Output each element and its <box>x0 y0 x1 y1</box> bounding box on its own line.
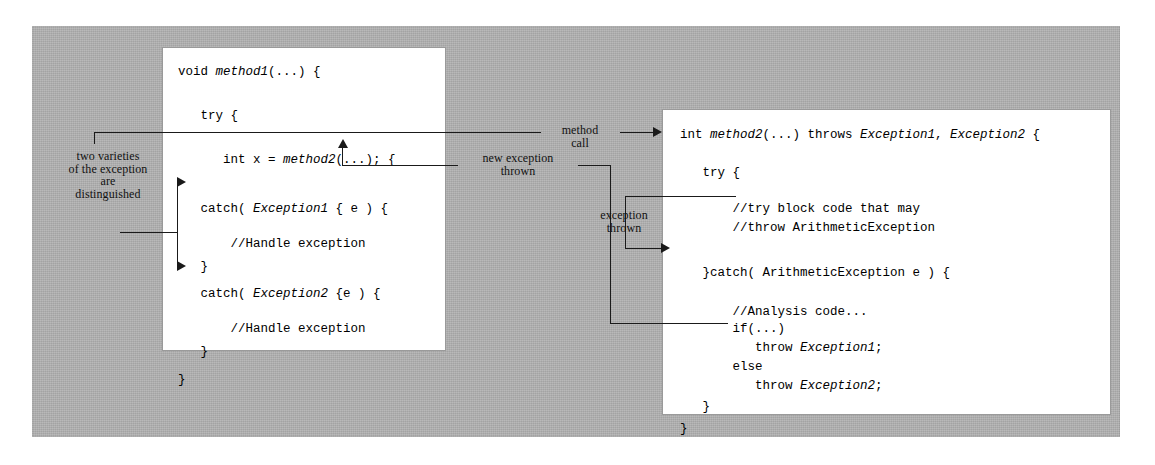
two-varieties-connector-stem <box>120 232 178 233</box>
exception-thrown-line-bottom <box>625 248 665 249</box>
code-line: //Analysis code... <box>680 306 868 319</box>
new-exception-line-c <box>610 323 728 324</box>
code-line: } <box>680 401 710 414</box>
method-call-left-tick <box>94 132 95 144</box>
code-line: throw Exception1; <box>680 342 883 355</box>
annotation-new-exception-thrown: new exception thrown <box>462 152 574 177</box>
code-line: //throw ArithmeticException <box>680 222 935 235</box>
arrow-into-catch-arithmetic-icon <box>661 243 670 253</box>
code-line: if(...) <box>680 323 785 336</box>
annotation-method-call: method call <box>540 124 620 149</box>
code-line: catch( Exception1 { e ) { <box>178 203 388 216</box>
new-exception-spine <box>610 165 611 323</box>
method-call-line-left <box>94 132 541 133</box>
method-call-line-right <box>620 132 657 133</box>
arrow-to-catch-exception1-icon <box>177 177 186 187</box>
code-line: int method2(...) throws Exception1, Exce… <box>680 129 1040 142</box>
diagram-canvas: void method1(...) { try { int x = method… <box>0 0 1155 465</box>
annotation-exception-thrown: exception thrown <box>583 209 665 234</box>
new-exception-line-a <box>342 165 458 166</box>
exception-thrown-line-top <box>625 196 736 197</box>
annotation-two-varieties: two varieties of the exception are disti… <box>48 150 168 200</box>
code-line: try { <box>680 167 740 180</box>
code-line: //try block code that may <box>680 203 920 216</box>
code-line: } <box>680 423 688 436</box>
code-line: //Handle exception <box>178 238 366 251</box>
method1-code-box: void method1(...) { try { int x = method… <box>163 48 445 350</box>
code-line: else <box>680 361 763 374</box>
code-line: }catch( ArithmeticException e ) { <box>680 267 950 280</box>
code-line: catch( Exception2 {e ) { <box>178 288 381 301</box>
new-exception-riser <box>342 148 343 166</box>
new-exception-line-b <box>578 165 611 166</box>
two-varieties-connector-spine <box>177 182 178 267</box>
code-line: void method1(...) { <box>178 66 321 79</box>
method2-code-box: int method2(...) throws Exception1, Exce… <box>663 110 1110 414</box>
code-line: try { <box>178 110 238 123</box>
code-line: } <box>178 374 186 387</box>
code-line: throw Exception2; <box>680 380 883 393</box>
arrow-into-method2-icon <box>653 127 662 137</box>
code-line: //Handle exception <box>178 323 366 336</box>
arrow-to-catch-exception2-icon <box>177 261 186 271</box>
arrow-return-to-callsite-icon <box>338 139 348 148</box>
code-line: } <box>178 346 208 359</box>
